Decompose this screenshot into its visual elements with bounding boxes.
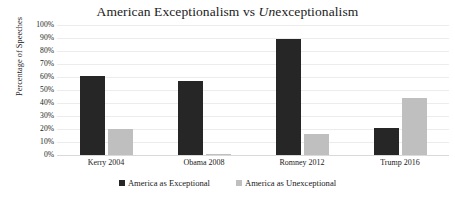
bar-group — [155, 25, 253, 155]
x-tick-label: Trump 2016 — [351, 158, 449, 167]
y-tick-label: 90% — [18, 34, 54, 42]
y-tick-label: 40% — [18, 99, 54, 107]
x-tick-label: Romney 2012 — [253, 158, 351, 167]
legend-label: America as Unexceptional — [245, 178, 336, 188]
legend-item[interactable]: America as Exceptional — [119, 178, 210, 188]
x-tick-label: Obama 2008 — [155, 158, 253, 167]
bar-group — [253, 25, 351, 155]
bar-group — [57, 25, 155, 155]
bar-unexceptional[interactable] — [304, 134, 329, 155]
bar-exceptional[interactable] — [80, 76, 105, 155]
bar-group — [351, 25, 449, 155]
y-tick-label: 30% — [18, 112, 54, 120]
y-tick-label: 0% — [18, 151, 54, 159]
chart-legend: America as ExceptionalAmerica as Unexcep… — [0, 178, 455, 188]
y-tick-label: 60% — [18, 73, 54, 81]
chart-title-after: exceptionalism — [275, 4, 358, 19]
bar-groups — [57, 25, 449, 155]
x-axis-tick-labels: Kerry 2004Obama 2008Romney 2012Trump 201… — [57, 158, 449, 167]
y-tick-label: 100% — [18, 21, 54, 29]
bar-exceptional[interactable] — [276, 39, 301, 155]
axis-baseline — [57, 155, 449, 156]
bar-unexceptional[interactable] — [402, 98, 427, 155]
bar-unexceptional[interactable] — [108, 129, 133, 155]
y-tick-label: 70% — [18, 60, 54, 68]
x-tick-label: Kerry 2004 — [57, 158, 155, 167]
plot-area — [57, 25, 449, 155]
chart-title-italic-prefix: Un — [259, 4, 276, 19]
bar-exceptional[interactable] — [374, 128, 399, 155]
legend-swatch-icon — [236, 180, 242, 186]
chart-container: American Exceptionalism vs Unexceptional… — [0, 0, 455, 205]
y-tick-label: 50% — [18, 86, 54, 94]
legend-item[interactable]: America as Unexceptional — [236, 178, 336, 188]
chart-title-before: American Exceptionalism vs — [97, 4, 259, 19]
y-tick-label: 10% — [18, 138, 54, 146]
bar-exceptional[interactable] — [178, 81, 203, 155]
y-tick-label: 80% — [18, 47, 54, 55]
legend-swatch-icon — [119, 180, 125, 186]
y-tick-label: 20% — [18, 125, 54, 133]
chart-title: American Exceptionalism vs Unexceptional… — [0, 4, 455, 20]
bar-unexceptional[interactable] — [206, 154, 231, 155]
legend-label: America as Exceptional — [128, 178, 210, 188]
y-axis-tick-labels: 100%90%80%70%60%50%40%30%20%10%0% — [18, 25, 54, 155]
